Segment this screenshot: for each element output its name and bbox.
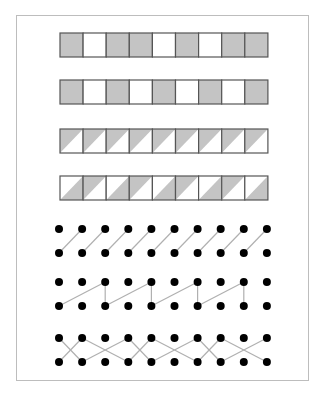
dot-diagram-3-dot	[240, 358, 248, 366]
dot-diagram-2-dot	[55, 302, 63, 310]
dot-diagram-2-dot	[101, 302, 109, 310]
dot-diagram-1-dot	[78, 225, 86, 233]
dot-diagram-1-dot	[171, 249, 179, 257]
dot-diagram-3-dot	[147, 334, 155, 342]
dot-diagram-2-dot	[101, 278, 109, 286]
dot-diagram-1-dot	[55, 225, 63, 233]
dot-diagram-1-dot	[124, 225, 132, 233]
dot-diagram-1-edge	[151, 229, 174, 253]
dot-diagram-1-dot	[171, 225, 179, 233]
strip-2-cell	[176, 80, 199, 104]
dot-diagram-1-dot	[78, 249, 86, 257]
strip-2-cell	[83, 80, 106, 104]
dot-diagram-3-dot	[147, 358, 155, 366]
dot-diagram-1-dot	[240, 225, 248, 233]
dot-diagram-1-edge	[82, 229, 105, 253]
strip-1-cell	[152, 33, 175, 57]
dot-diagram-2-dot	[217, 302, 225, 310]
dot-diagram-2-dot	[147, 278, 155, 286]
dot-diagram-3-dot	[217, 358, 225, 366]
dot-diagram-1-dot	[217, 249, 225, 257]
dot-diagram-3-dot	[194, 358, 202, 366]
dot-diagram-2-dot	[147, 302, 155, 310]
dot-diagram-1-edge	[105, 229, 128, 253]
diagram-canvas	[0, 0, 324, 396]
dot-diagram-1-edge	[128, 229, 151, 253]
dot-diagram-3-dot	[194, 334, 202, 342]
dot-diagram-1-edge	[59, 229, 82, 253]
dot-diagram-3-dot	[263, 358, 271, 366]
dot-diagram-2-dot	[194, 278, 202, 286]
dot-diagram-1-dot	[240, 249, 248, 257]
dot-diagram-1-dot	[194, 249, 202, 257]
dot-diagram-1-dot	[217, 225, 225, 233]
strip-2-cell	[245, 80, 268, 104]
dot-diagram-1-dot	[101, 225, 109, 233]
dot-diagram-1-dot	[147, 225, 155, 233]
dot-diagram-2-dot	[124, 278, 132, 286]
strip-2-cell	[106, 80, 129, 104]
strip-1-cell	[106, 33, 129, 57]
dot-diagram-1-dot	[263, 249, 271, 257]
dot-diagram-2-dot	[124, 302, 132, 310]
dot-diagram-1-dot	[147, 249, 155, 257]
dot-diagram-3-dot	[171, 358, 179, 366]
dot-diagram-3-dot	[101, 358, 109, 366]
strip-1-cell	[199, 33, 222, 57]
dot-diagram-2-dot	[217, 278, 225, 286]
dot-diagram-3-dot	[78, 358, 86, 366]
dot-diagram-2-dot	[263, 278, 271, 286]
dot-diagram-1-dot	[194, 225, 202, 233]
dot-diagram-3-dot	[55, 358, 63, 366]
strip-1-cell	[129, 33, 152, 57]
dot-diagram-2-dot	[78, 302, 86, 310]
dot-diagram-3-dot	[217, 334, 225, 342]
dot-diagram-2-dot	[78, 278, 86, 286]
dot-diagram-1-edge	[198, 229, 221, 253]
dot-diagram-2-dot	[171, 302, 179, 310]
strip-1-cell	[83, 33, 106, 57]
dot-diagram-1-edge	[221, 229, 244, 253]
dot-diagram-2-dot	[240, 302, 248, 310]
strip-1-cell	[60, 33, 83, 57]
dot-diagram-1-edge	[175, 229, 198, 253]
dot-diagram-3-dot	[55, 334, 63, 342]
dot-diagram-2-dot	[55, 278, 63, 286]
dot-diagram-1-dot	[101, 249, 109, 257]
dot-diagram-2-dot	[194, 302, 202, 310]
strip-2-cell	[222, 80, 245, 104]
dot-diagram-3-dot	[124, 334, 132, 342]
strip-1-cell	[176, 33, 199, 57]
dot-diagram-2-dot	[171, 278, 179, 286]
dot-diagram-3-dot	[171, 334, 179, 342]
strip-1-cell	[245, 33, 268, 57]
dot-diagram-1-dot	[124, 249, 132, 257]
dot-diagram-1-dot	[55, 249, 63, 257]
dot-diagram-3-dot	[124, 358, 132, 366]
dot-diagram-2-dot	[263, 302, 271, 310]
dot-diagram-3-dot	[263, 334, 271, 342]
strip-2-cell	[152, 80, 175, 104]
dot-diagram-1-dot	[263, 225, 271, 233]
strip-2-cell	[199, 80, 222, 104]
strip-1-cell	[222, 33, 245, 57]
dot-diagram-3-dot	[101, 334, 109, 342]
strip-2-cell	[129, 80, 152, 104]
dot-diagram-1-edge	[244, 229, 267, 253]
dot-diagram-3-dot	[78, 334, 86, 342]
strip-2-cell	[60, 80, 83, 104]
dot-diagram-2-dot	[240, 278, 248, 286]
dot-diagram-3-dot	[240, 334, 248, 342]
